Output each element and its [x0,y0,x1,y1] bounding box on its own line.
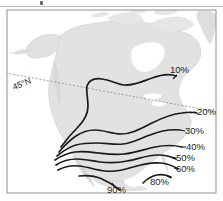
contour-label-90: 90% [107,184,127,195]
contour-label-40: 40% [186,141,206,152]
contour-label-50: 50% [176,152,196,163]
island-dot [11,52,13,54]
contour-label-80: 80% [150,176,170,187]
contour-label-60: 60% [176,163,196,174]
contour-label-30: 30% [185,125,205,136]
contour-map: 10% 20% 30% 40% 50% 60% 80% 90% 45°N [0,0,223,201]
contour-label-20: 20% [197,106,217,117]
contour-label-10: 10% [170,64,190,75]
figure-container: 10% 20% 30% 40% 50% 60% 80% 90% 45°N [0,0,223,201]
island-dot [21,49,23,51]
